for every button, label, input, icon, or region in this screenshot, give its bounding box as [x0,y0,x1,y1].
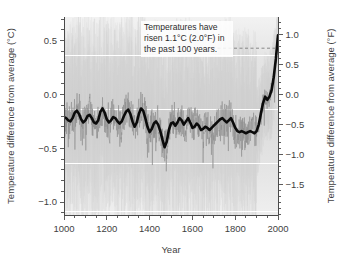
y-axis-right-ticks [278,23,283,214]
y-axis-left-ticks [60,19,65,213]
y-right-tick-label: 0.5 [286,59,299,70]
x-tick-label: 1600 [182,223,203,234]
y-left-tick-label: −1.0 [38,196,57,207]
x-tick-label: 1800 [225,223,246,234]
y-axis-left-title: Temperature difference from average (°C) [5,28,16,204]
y-axis-left-tick-labels: 0.50.0−0.5−1.0 [38,35,57,207]
x-axis-ticks [64,215,278,220]
y-right-tick-label: −0.5 [286,119,305,130]
y-left-tick-label: −0.5 [38,143,57,154]
x-tick-label: 2000 [267,223,288,234]
y-left-tick-label: 0.5 [44,35,57,46]
chart-canvas: 0.50.0−0.5−1.0 1.00.50.0−0.5−1.0−1.5 100… [0,0,344,261]
y-left-tick-label: 0.0 [44,89,57,100]
annotation-callout: Temperatures have risen 1.1°C (2.0°F) in… [141,21,233,57]
y-right-tick-label: 0.0 [286,89,299,100]
annotation-line-2: risen 1.1°C (2.0°F) in [144,33,225,43]
x-tick-label: 1000 [53,223,74,234]
x-tick-label: 1200 [96,223,117,234]
y-right-tick-label: 1.0 [286,29,299,40]
y-right-tick-label: −1.0 [286,149,305,160]
temperature-reconstruction-figure: 0.50.0−0.5−1.0 1.00.50.0−0.5−1.0−1.5 100… [0,0,344,261]
x-tick-label: 1400 [139,223,160,234]
y-right-tick-label: −1.5 [286,179,305,190]
annotation-line-3: the past 100 years. [144,44,217,54]
annotation-line-1: Temperatures have [144,22,218,32]
y-axis-right-tick-labels: 1.00.50.0−0.5−1.0−1.5 [286,29,305,189]
x-axis-tick-labels: 100012001400160018002000 [53,223,288,234]
y-axis-right-title: Temperature difference from average (°F) [325,29,336,204]
x-axis-title: Year [161,244,180,255]
